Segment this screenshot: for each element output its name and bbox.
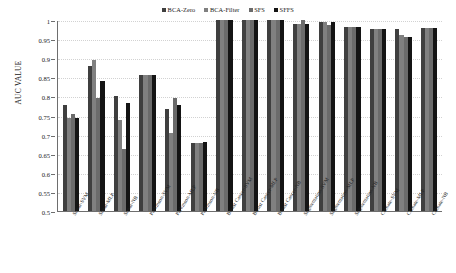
bar-group [212,21,238,211]
bar-group [391,21,417,211]
bar[interactable] [280,20,284,211]
bar-group [186,21,212,211]
legend-swatch-icon [274,8,278,12]
bar[interactable] [356,27,360,211]
bar-group [109,21,135,211]
y-axis-title: AUC VALUE [14,13,23,153]
y-axis-tick-mark [51,136,55,137]
y-axis-tick-mark [51,117,55,118]
bar-group [160,21,186,211]
legend-item[interactable]: BCA-Zero [162,6,195,13]
bar[interactable] [408,37,412,211]
bar-chart: BCA-ZeroBCA-FilterSFSSFFS AUC VALUE 10.9… [0,0,456,273]
bar[interactable] [100,81,104,211]
y-axis-tick-label: 0.55 [38,189,50,196]
y-axis-tick-labels: 10.950.90.850.80.750.70.650.60.550.5 [26,21,54,212]
y-axis-tick-label: 1 [47,18,50,25]
bar[interactable] [331,22,335,211]
bar[interactable] [126,103,130,211]
legend-item-label: SFS [254,6,265,13]
legend-swatch-icon [249,8,253,12]
legend-item[interactable]: SFS [249,6,265,13]
bar[interactable] [382,29,386,211]
y-axis-tick-label: 0.95 [38,37,50,44]
bar[interactable] [152,75,156,211]
x-axis-tick-labels: Sonar-SVMSonar-MLPSonar-NBParkinson-SVMP… [57,212,442,273]
y-axis-tick-label: 0.85 [38,75,50,82]
y-axis-tick-mark [51,59,55,60]
y-axis-tick-label: 0.8 [42,94,50,101]
legend-item-label: BCA-Zero [168,6,196,13]
y-axis-tick-label: 0.5 [42,209,50,216]
bar[interactable] [254,20,258,211]
y-axis-tick-mark [51,174,55,175]
y-axis-tick-label: 0.75 [38,113,50,120]
legend-item-label: BCA-Filter [210,6,240,13]
y-axis-tick-mark [51,78,55,79]
bar[interactable] [305,24,309,211]
bar-group [135,21,161,211]
y-axis-tick-mark [51,40,55,41]
bar-group [416,21,442,211]
bar[interactable] [228,20,232,211]
bar-group [84,21,110,211]
y-axis-tick-label: 0.9 [42,56,50,63]
bar[interactable] [75,118,79,211]
legend-swatch-icon [162,8,166,12]
y-axis-tick-mark [51,193,55,194]
y-axis-tick-label: 0.6 [42,170,50,177]
y-axis-tick-mark [51,21,55,22]
legend-item-label: SFFS [280,6,294,13]
bar-group [58,21,84,211]
y-axis-tick-mark [51,212,55,213]
bar[interactable] [177,105,181,211]
y-axis-tick-mark [51,97,55,98]
y-axis-tick-label: 0.7 [42,132,50,139]
legend-item[interactable]: SFFS [274,6,294,13]
y-axis-tick-label: 0.65 [38,151,50,158]
legend-item[interactable]: BCA-Filter [204,6,239,13]
chart-legend: BCA-ZeroBCA-FilterSFSSFFS [0,6,456,13]
y-axis-tick-mark [51,155,55,156]
bar[interactable] [433,28,437,211]
legend-swatch-icon [204,8,208,12]
